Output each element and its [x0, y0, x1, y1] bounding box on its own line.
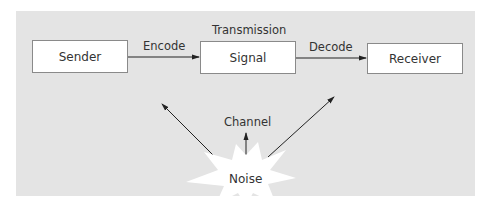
decode-label: Decode — [309, 40, 353, 54]
channel-label: Channel — [224, 115, 271, 129]
noise-label: Noise — [229, 172, 262, 186]
signal-box: Signal — [200, 41, 296, 74]
sender-box: Sender — [32, 40, 128, 73]
sender-label: Sender — [59, 50, 102, 64]
noise-to-decode-arrow — [268, 97, 334, 157]
receiver-label: Receiver — [389, 52, 441, 66]
encode-label: Encode — [143, 39, 185, 53]
signal-label: Signal — [230, 51, 267, 65]
transmission-label: Transmission — [212, 23, 286, 37]
noise-to-encode-arrow — [162, 104, 214, 156]
receiver-box: Receiver — [367, 43, 463, 74]
